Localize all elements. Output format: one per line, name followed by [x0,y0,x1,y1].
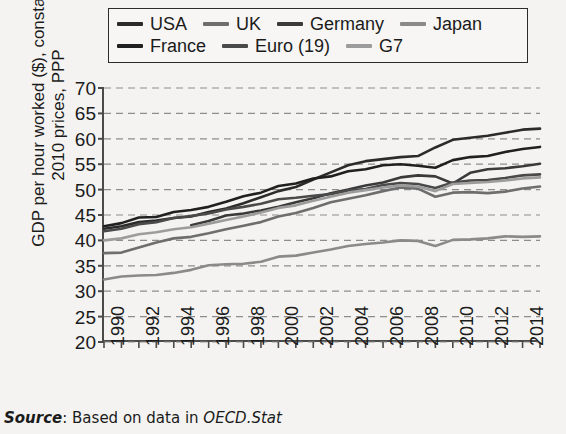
x-tick-label: 1996 [214,306,232,346]
legend-item-france: France [117,37,206,55]
y-tick-label: 45 [52,206,96,225]
source-note: Source: Based on data in OECD.Stat [4,409,282,427]
source-word: Source [4,409,62,427]
x-axis-tick-labels: 1990199219941996199820002002200420062008… [102,346,538,408]
source-text: Based on data in [72,409,203,427]
legend-item-g7: G7 [346,37,403,55]
legend-label-euro19: Euro (19) [255,37,330,55]
y-axis-tick-labels: 2025303540455055606570 [52,88,96,342]
x-tick-label: 2000 [283,306,301,346]
y-tick-label: 25 [52,308,96,327]
chart-canvas [104,88,540,342]
x-tick-label: 1994 [179,306,197,346]
legend-label-germany: Germany [310,15,384,33]
x-tick-label: 1990 [109,306,127,346]
y-tick-label: 60 [52,130,96,149]
y-tick-label: 50 [52,181,96,200]
legend-swatch-euro19 [222,44,248,48]
legend-label-japan: Japan [433,15,482,33]
x-tick-label: 2012 [493,306,511,346]
source-reference: OECD.Stat [203,409,282,427]
x-tick-label: 2010 [458,306,476,346]
x-tick-label: 2006 [388,306,406,346]
y-tick-label: 40 [52,231,96,250]
y-tick-label: 35 [52,257,96,276]
legend-swatch-japan [400,22,426,26]
y-axis-title-line1: GDP per hour worked ($), constant [29,0,48,247]
legend-item-euro19: Euro (19) [222,37,330,55]
legend-item-japan: Japan [400,15,482,33]
y-tick-label: 65 [52,104,96,123]
series-line-g7 [104,177,540,240]
legend-label-usa: USA [150,15,187,33]
legend-swatch-france [117,44,143,48]
x-tick-label: 1998 [249,306,267,346]
legend-item-uk: UK [203,15,261,33]
legend-swatch-uk [203,22,229,26]
x-tick-label: 2014 [528,306,546,346]
y-tick-label: 55 [52,155,96,174]
series-line-france [104,147,540,226]
legend-label-france: France [150,37,206,55]
legend-swatch-germany [277,22,303,26]
legend-row-1: USA UK Germany Japan [117,13,521,35]
legend-row-2: France Euro (19) G7 [117,35,521,57]
y-tick-label: 20 [52,333,96,352]
legend-label-uk: UK [236,15,261,33]
legend-item-germany: Germany [277,15,384,33]
y-tick-label: 70 [52,79,96,98]
x-tick-label: 2002 [318,306,336,346]
legend-label-g7: G7 [379,37,403,55]
series-line-japan [104,236,540,279]
legend-item-usa: USA [117,15,187,33]
x-tick-label: 2004 [353,306,371,346]
chart-legend: USA UK Germany Japan France Euro (1 [108,8,528,63]
plot-area [102,88,538,342]
legend-swatch-usa [117,22,143,26]
source-colon: : [62,409,72,427]
x-tick-label: 1992 [144,306,162,346]
y-tick-label: 30 [52,282,96,301]
x-tick-label: 2008 [423,306,441,346]
legend-swatch-g7 [346,44,372,48]
